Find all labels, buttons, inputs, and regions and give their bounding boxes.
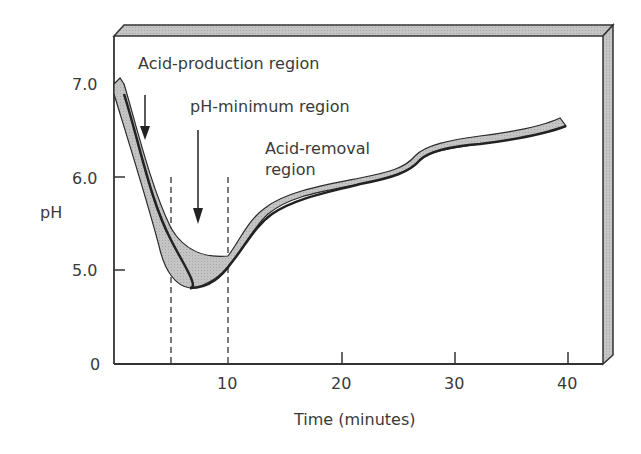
label-acid-removal-line1: Acid-removal [265,139,370,158]
label-acid-removal-line2: region [265,160,316,179]
y-tick-label-6: 6.0 [72,169,97,188]
chart-frame [114,25,613,364]
x-tick-label-10: 10 [217,374,237,393]
y-tick-label-7: 7.0 [72,75,97,94]
x-ticks [342,352,568,364]
label-ph-minimum: pH-minimum region [190,97,350,116]
x-axis-label: Time (minutes) [293,410,416,429]
y-ticks [114,177,125,270]
label-acid-production: Acid-production region [138,54,319,73]
x-tick-label-40: 40 [557,374,577,393]
arrow-down-icon [140,126,150,140]
y-tick-label-0: 0 [90,355,100,374]
y-axis-label: pH [40,203,62,222]
arrow-down-icon [193,208,203,224]
y-tick-label-5: 5.0 [72,261,97,280]
ph-time-chart: Acid-production region pH-minimum region… [0,0,641,454]
x-tick-label-30: 30 [444,374,464,393]
x-tick-label-20: 20 [331,374,351,393]
